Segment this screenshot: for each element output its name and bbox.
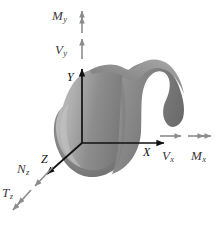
vector-label-base: V (55, 42, 63, 57)
axis-label-x: X (143, 146, 150, 158)
vector-label-shear-force-y: Vy (55, 41, 67, 58)
vector-label-subscript: x (202, 154, 206, 164)
vector-label-shear-force-x: Vx (162, 147, 174, 164)
vector-label-bending-moment-x: Mx (191, 147, 206, 164)
vector-label-torsional-moment-z: Tz (2, 184, 13, 201)
axis-label-y: Y (67, 71, 74, 83)
vector-label-subscript: z (10, 191, 13, 201)
vector-label-base: T (2, 185, 9, 200)
figure-graphics (0, 0, 222, 225)
normal-force-z-arrow (35, 167, 53, 186)
vector-label-subscript: x (170, 154, 174, 164)
vector-label-base: V (162, 148, 170, 163)
vector-label-subscript: z (26, 167, 29, 177)
figure-canvas: X Y Z Vy My Vx Mx Nz Tz (0, 0, 222, 225)
vector-label-subscript: y (63, 48, 67, 58)
vector-label-base: M (191, 148, 202, 163)
vector-label-bending-moment-y: My (52, 7, 67, 24)
vector-label-subscript: y (63, 14, 67, 24)
vector-label-normal-force-z: Nz (17, 160, 29, 177)
axis-label-z: Z (41, 153, 48, 165)
vector-label-base: M (52, 8, 63, 23)
vector-label-base: N (17, 161, 26, 176)
torsional-moment-z-arrow (13, 190, 31, 210)
